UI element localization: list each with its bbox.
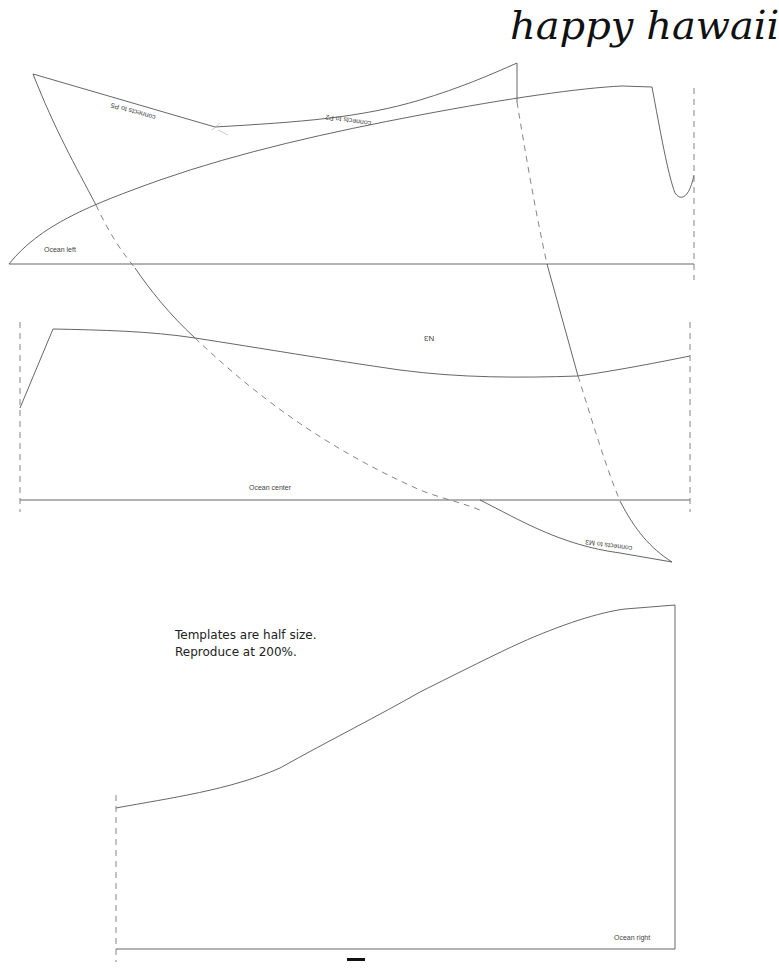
notch-mark	[212, 123, 228, 135]
note-line-2: Reproduce at 200%.	[175, 644, 316, 661]
piece-label-n3: N3	[424, 334, 434, 343]
top-piece-outline	[33, 63, 517, 127]
ocean-left-top-curve	[9, 86, 694, 264]
piece-label-ocean-center: Ocean center	[249, 484, 291, 491]
right-cut-line	[547, 264, 578, 376]
m3-right-curve	[620, 501, 672, 562]
piece-label-ocean-right: Ocean right	[614, 934, 650, 941]
fold-line-right-bottom	[578, 376, 620, 501]
fold-line-right-top	[517, 102, 547, 264]
page-mark	[347, 958, 365, 961]
instructions-note: Templates are half size. Reproduce at 20…	[175, 627, 316, 661]
ocean-center-top-curve	[20, 329, 690, 408]
piece-label-ocean-left: Ocean left	[44, 246, 76, 253]
fold-curve-center	[195, 338, 480, 510]
cut-curve-mid	[135, 268, 195, 338]
note-line-1: Templates are half size.	[175, 627, 316, 644]
m3-bottom-curve	[480, 500, 672, 562]
left-cut-curve	[33, 74, 96, 205]
fold-curve-left	[96, 205, 135, 268]
